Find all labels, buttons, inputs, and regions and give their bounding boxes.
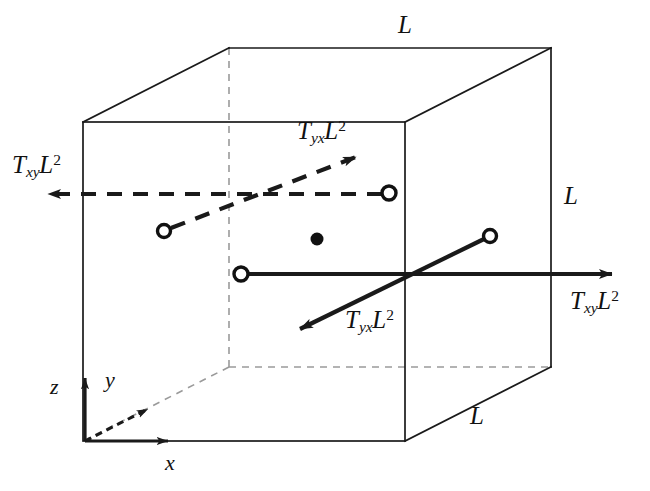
coordinate-axes xyxy=(85,378,168,441)
open-circle-dashed-diagonal-tail xyxy=(158,225,171,238)
axis-label-x: x xyxy=(165,452,175,474)
open-circle-dashed-horizontal-tail xyxy=(382,186,396,200)
force-couple-tyx-dashed xyxy=(48,157,382,228)
open-circle-solid-diagonal-tail xyxy=(484,230,497,243)
arrow-tail-circles xyxy=(158,186,497,281)
axis-label-z: z xyxy=(50,376,59,398)
stress-label-tyx-lower: TyxL2 xyxy=(345,307,394,335)
axis-label-y: y xyxy=(105,369,115,391)
y-axis-line xyxy=(85,409,148,441)
center-dot-marker xyxy=(311,233,324,246)
dimension-label-right: L xyxy=(564,183,578,208)
dimension-label-bottom-right: L xyxy=(470,403,484,428)
open-circle-solid-horizontal-tail xyxy=(234,267,248,281)
stress-label-tyx-upper: TyxL2 xyxy=(297,118,346,146)
figure-canvas xyxy=(0,0,650,491)
dimension-label-top: L xyxy=(398,12,412,37)
stress-label-txy-left: TxyL2 xyxy=(12,152,61,180)
stress-label-txy-right: TxyL2 xyxy=(570,288,619,316)
stress-cube-figure: TxyL2 TyxL2 TxyL2 TyxL2 L L L z y x xyxy=(0,0,650,491)
force-couple-txy-solid xyxy=(248,239,612,329)
